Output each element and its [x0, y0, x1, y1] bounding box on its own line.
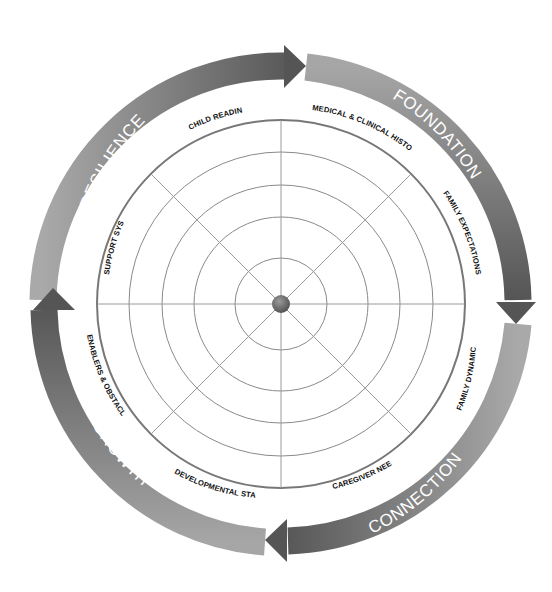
arrow-growth	[33, 288, 265, 542]
arrow-resilience	[43, 45, 306, 300]
center-dot-icon	[272, 295, 290, 313]
segment-label-family-expectations: FAMILY EXPECTATIONS	[441, 189, 483, 275]
arrowhead-right-icon	[284, 45, 306, 88]
arrowhead-down-icon	[496, 302, 536, 324]
quadrant-label-connection: CONNECTION	[365, 449, 465, 538]
arrowhead-left-icon	[265, 519, 287, 562]
assessment-wheel: RESILIENCE FOUNDATION CONNECTION GROWTH …	[0, 0, 552, 592]
